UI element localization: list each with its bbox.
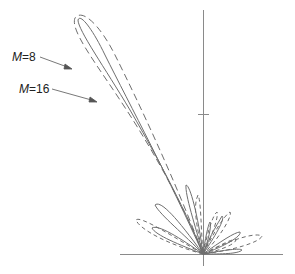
label-m8-eq: =: [22, 50, 29, 64]
label-m8: M=8: [12, 51, 36, 63]
pattern-plot: [0, 0, 295, 274]
radiation-pattern-diagram: M=8 M=16: [0, 0, 295, 274]
label-m16-value: 16: [36, 82, 49, 96]
main-lobe-m16-solid: [78, 18, 203, 254]
label-m16: M=16: [19, 83, 49, 95]
label-m16-var: M: [19, 82, 29, 96]
label-m8-var: M: [12, 50, 22, 64]
arrowhead-m16: [89, 97, 97, 102]
label-m16-eq: =: [29, 82, 36, 96]
label-m8-value: 8: [29, 50, 36, 64]
arrow-m16: [52, 89, 95, 101]
arrowhead-m8: [64, 64, 72, 69]
